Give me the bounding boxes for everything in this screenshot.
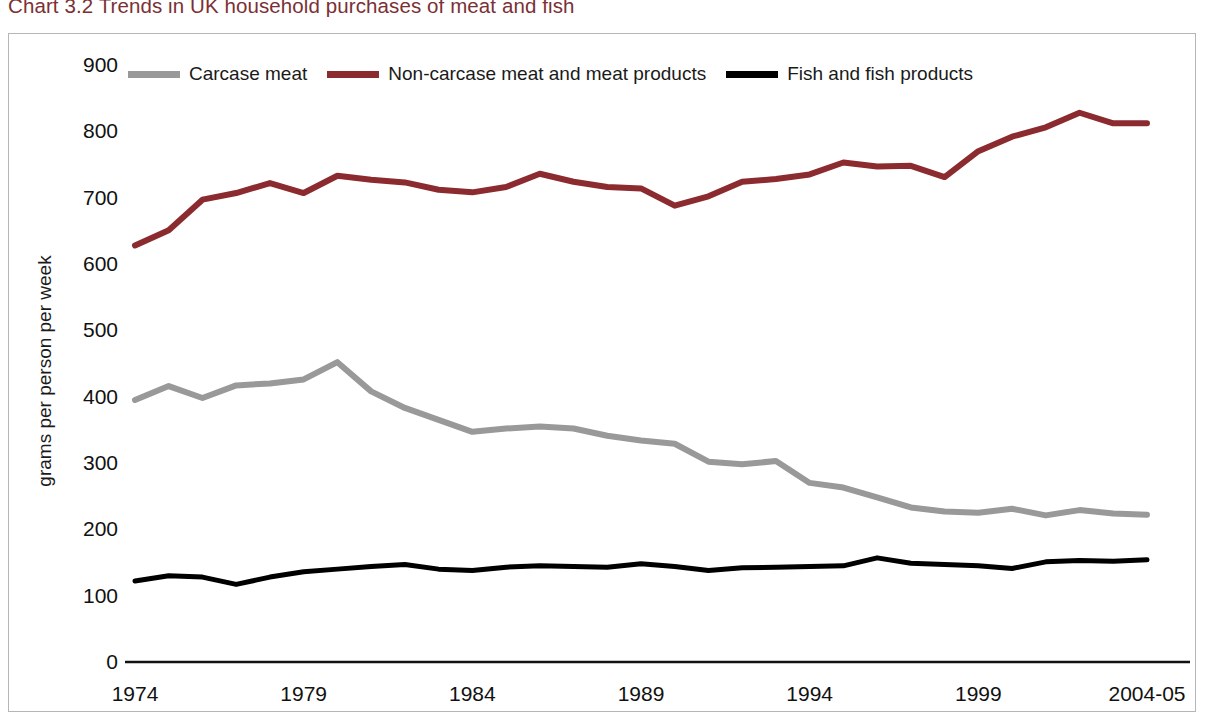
legend-item-carcase-meat: Carcase meat [128, 63, 307, 85]
legend-swatch-icon [327, 71, 379, 78]
y-axis-tick-label: 400 [58, 385, 118, 409]
x-axis-tick-label: 1974 [112, 682, 159, 706]
y-axis-tick-label: 800 [58, 119, 118, 143]
x-axis-tick-label: 1999 [955, 682, 1002, 706]
y-axis-tick-label: 900 [58, 53, 118, 77]
y-axis-tick-label: 600 [58, 252, 118, 276]
legend-item-fish: Fish and fish products [726, 63, 973, 85]
x-axis-tick-label: 2004-05 [1108, 682, 1185, 706]
y-axis-tick-label: 100 [58, 584, 118, 608]
y-axis-tick-label: 300 [58, 451, 118, 475]
legend-label: Fish and fish products [787, 63, 973, 85]
y-axis-tick-label: 500 [58, 318, 118, 342]
x-axis-tick-label: 1989 [618, 682, 665, 706]
chart-frame [8, 33, 1196, 712]
legend-item-non-carcase-meat: Non-carcase meat and meat products [327, 63, 706, 85]
y-axis-title: grams per person per week [34, 221, 56, 521]
chart-legend: Carcase meat Non-carcase meat and meat p… [128, 63, 993, 85]
x-axis-tick-label: 1984 [449, 682, 496, 706]
x-axis-tick-label: 1979 [280, 682, 327, 706]
legend-label: Carcase meat [189, 63, 307, 85]
legend-swatch-icon [726, 71, 778, 78]
y-axis-tick-label: 0 [58, 650, 118, 674]
y-axis-tick-label: 700 [58, 186, 118, 210]
y-axis-tick-labels: 9008007006005004003002001000 [58, 0, 118, 725]
legend-label: Non-carcase meat and meat products [388, 63, 706, 85]
legend-swatch-icon [128, 71, 180, 78]
x-axis-tick-label: 1994 [786, 682, 833, 706]
y-axis-tick-label: 200 [58, 517, 118, 541]
